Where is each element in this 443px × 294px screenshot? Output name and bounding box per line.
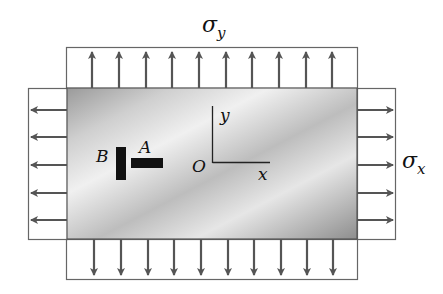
left-stress-arrows xyxy=(31,110,67,220)
bottom-stress-arrows xyxy=(94,239,333,275)
bottom-load-box xyxy=(67,240,358,280)
element-a-label: A xyxy=(137,137,151,157)
right-stress-arrows xyxy=(357,110,393,220)
axis-y-label: y xyxy=(219,105,230,125)
top-load-box xyxy=(67,48,358,89)
element-b-label: B xyxy=(95,146,109,166)
element-b-bar xyxy=(116,147,126,180)
sigma-y-label: σy xyxy=(202,12,226,42)
top-stress-arrows xyxy=(92,52,332,88)
element-a-bar xyxy=(131,158,163,168)
origin-label: O xyxy=(192,156,206,176)
axis-x-label: x xyxy=(258,164,268,184)
stress-diagram: σy σx B A O y x xyxy=(0,0,443,294)
sigma-x-label: σx xyxy=(402,148,426,178)
